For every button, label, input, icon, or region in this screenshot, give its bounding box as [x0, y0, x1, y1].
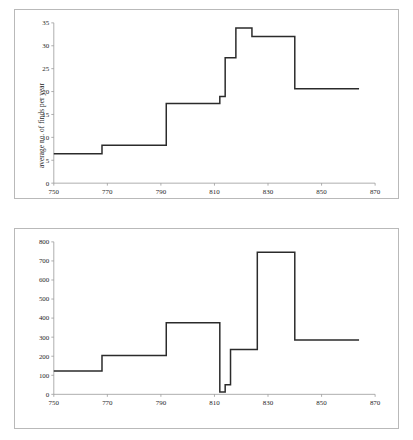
y-tick-label: 200 [39, 353, 50, 361]
chart-bottom-plot-area: 0100200300400500600700800750770790810830… [15, 229, 398, 428]
x-tick-label: 770 [102, 399, 113, 407]
y-tick-label: 30 [42, 42, 49, 50]
x-tick-label: 830 [263, 399, 274, 407]
chart-top-y-axis-label: average no. of finds per year [38, 83, 46, 168]
chart-average-finds-per-year: 05101520253035750770790810830850870 aver… [14, 9, 399, 199]
y-tick-label: 400 [39, 314, 50, 322]
y-tick-label: 800 [39, 238, 50, 246]
x-tick-label: 850 [316, 399, 327, 407]
figure-page: 05101520253035750770790810830850870 aver… [0, 0, 413, 440]
x-tick-label: 790 [156, 399, 167, 407]
x-tick-label: 770 [102, 188, 113, 196]
chart-bottom-svg: 0100200300400500600700800750770790810830… [15, 229, 398, 428]
x-tick-label: 870 [370, 399, 381, 407]
y-tick-label: 500 [39, 295, 50, 303]
y-tick-label: 0 [46, 180, 50, 188]
x-tick-label: 850 [316, 188, 327, 196]
y-tick-label: 100 [39, 372, 50, 380]
y-tick-label: 600 [39, 276, 50, 284]
step-series-line [54, 28, 359, 154]
x-tick-label: 750 [49, 399, 60, 407]
y-tick-label: 35 [42, 19, 49, 27]
x-tick-label: 790 [156, 188, 167, 196]
chart-top-plot-area: 05101520253035750770790810830850870 [15, 10, 398, 198]
y-tick-label: 5 [46, 157, 50, 165]
x-tick-label: 810 [209, 399, 220, 407]
y-tick-label: 700 [39, 257, 50, 265]
step-series-line [54, 252, 359, 392]
x-tick-label: 810 [209, 188, 220, 196]
x-tick-label: 750 [49, 188, 60, 196]
y-tick-label: 0 [46, 391, 50, 399]
chart-top-svg: 05101520253035750770790810830850870 [15, 10, 398, 198]
chart-number-of-finds: 0100200300400500600700800750770790810830… [14, 228, 399, 429]
x-tick-label: 830 [263, 188, 274, 196]
x-tick-label: 870 [370, 188, 381, 196]
y-tick-label: 25 [42, 65, 49, 73]
y-tick-label: 300 [39, 334, 50, 342]
